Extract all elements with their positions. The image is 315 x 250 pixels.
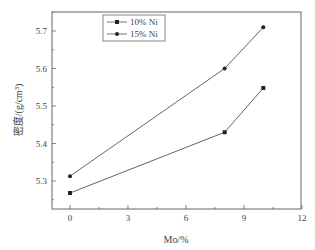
x-axis: 036912 bbox=[68, 205, 307, 223]
y-tick-label: 5.4 bbox=[36, 139, 48, 149]
series-line bbox=[70, 88, 263, 193]
data-point bbox=[261, 86, 265, 90]
data-point bbox=[261, 25, 265, 29]
y-axis-label: 密度/(g/cm³) bbox=[12, 84, 25, 136]
y-tick-label: 5.5 bbox=[36, 101, 48, 111]
square-marker-icon bbox=[115, 20, 119, 24]
x-axis-label: Mo/% bbox=[164, 234, 189, 245]
data-point bbox=[68, 174, 72, 178]
data-point bbox=[223, 130, 227, 134]
x-tick-label: 0 bbox=[68, 213, 73, 223]
data-point bbox=[68, 191, 72, 195]
legend-item-10ni: 10% Ni bbox=[130, 17, 158, 27]
line-chart: 036912 5.35.45.55.65.7 Mo/% 密度/(g/cm³) 1… bbox=[0, 0, 315, 250]
circle-marker-icon bbox=[115, 32, 119, 36]
y-tick-label: 5.3 bbox=[36, 176, 48, 186]
series-line bbox=[70, 27, 263, 176]
x-tick-label: 6 bbox=[184, 213, 189, 223]
y-tick-label: 5.7 bbox=[36, 26, 48, 36]
data-point bbox=[223, 67, 227, 71]
x-tick-label: 3 bbox=[126, 213, 131, 223]
legend: 10% Ni 15% Ni bbox=[103, 15, 165, 41]
legend-item-15ni: 15% Ni bbox=[130, 29, 158, 39]
series-group bbox=[68, 25, 265, 195]
x-tick-label: 12 bbox=[297, 213, 306, 223]
y-tick-label: 5.6 bbox=[36, 64, 48, 74]
x-tick-label: 9 bbox=[242, 213, 247, 223]
plot-frame bbox=[52, 12, 301, 209]
y-axis: 5.35.45.55.65.7 bbox=[36, 12, 56, 200]
